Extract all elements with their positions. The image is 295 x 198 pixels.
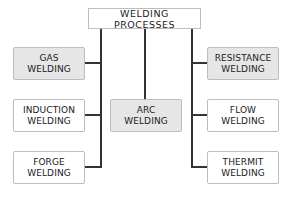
node-forge-welding: FORGE WELDING bbox=[13, 151, 85, 184]
node-label-line2: WELDING bbox=[221, 116, 265, 127]
node-label-line1: ARC bbox=[137, 105, 156, 116]
connector-gas bbox=[85, 62, 101, 64]
connector-induction bbox=[85, 114, 101, 116]
connector-resistance bbox=[192, 62, 207, 64]
node-label-line1: FLOW bbox=[230, 105, 256, 116]
node-label-line2: WELDING bbox=[124, 116, 168, 127]
node-label-line1: INDUCTION bbox=[23, 105, 75, 116]
root-node-label: WELDING PROCESSES bbox=[89, 8, 200, 30]
connector-flow bbox=[192, 114, 207, 116]
node-label-line2: WELDING bbox=[221, 168, 265, 179]
node-label-line2: WELDING bbox=[27, 64, 71, 75]
node-gas-welding: GAS WELDING bbox=[13, 47, 85, 80]
connector-forge bbox=[85, 166, 101, 168]
node-induction-welding: INDUCTION WELDING bbox=[13, 99, 85, 132]
node-resistance-welding: RESISTANCE WELDING bbox=[207, 47, 279, 80]
node-thermit-welding: THERMIT WELDING bbox=[207, 151, 279, 184]
connector-left-trunk bbox=[100, 28, 102, 168]
node-label-line1: THERMIT bbox=[223, 157, 264, 168]
node-label-line2: WELDING bbox=[27, 168, 71, 179]
node-label-line1: RESISTANCE bbox=[215, 53, 272, 64]
connector-right-trunk bbox=[191, 28, 193, 168]
node-label-line1: GAS bbox=[39, 53, 58, 64]
node-arc-welding: ARC WELDING bbox=[110, 99, 182, 132]
node-label-line2: WELDING bbox=[27, 116, 71, 127]
node-label-line2: WELDING bbox=[221, 64, 265, 75]
root-node-welding-processes: WELDING PROCESSES bbox=[88, 8, 201, 29]
node-flow-welding: FLOW WELDING bbox=[207, 99, 279, 132]
node-label-line1: FORGE bbox=[33, 157, 65, 168]
connector-center-trunk bbox=[144, 28, 146, 99]
connector-thermit bbox=[192, 166, 207, 168]
